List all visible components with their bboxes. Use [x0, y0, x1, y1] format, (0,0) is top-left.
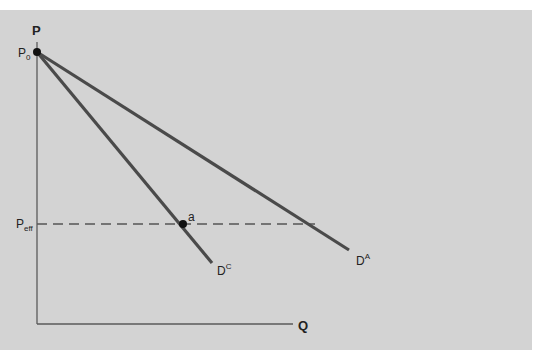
p0-label-sub: 0 — [26, 53, 31, 62]
da-label-sup: A — [365, 252, 371, 261]
dc-label-sup: C — [226, 262, 232, 271]
peff-label: Peff — [16, 217, 34, 233]
da-label: DA — [356, 252, 371, 268]
point-a — [179, 220, 187, 228]
x-axis-title: Q — [298, 318, 308, 333]
peff-label-sub: eff — [24, 224, 34, 233]
y-axis-title: P — [32, 23, 41, 38]
p0-label: P0 — [18, 46, 31, 62]
dc-label: DC — [217, 262, 232, 278]
demand-curve-dc — [37, 52, 212, 263]
da-label-main: D — [356, 254, 365, 268]
dc-label-main: D — [217, 264, 226, 278]
p0-point — [33, 48, 41, 56]
point-a-label: a — [188, 210, 195, 224]
p0-label-main: P — [18, 46, 26, 60]
demand-chart: P Q P0 Peff a DC DA — [0, 0, 548, 362]
peff-label-main: P — [16, 217, 24, 231]
